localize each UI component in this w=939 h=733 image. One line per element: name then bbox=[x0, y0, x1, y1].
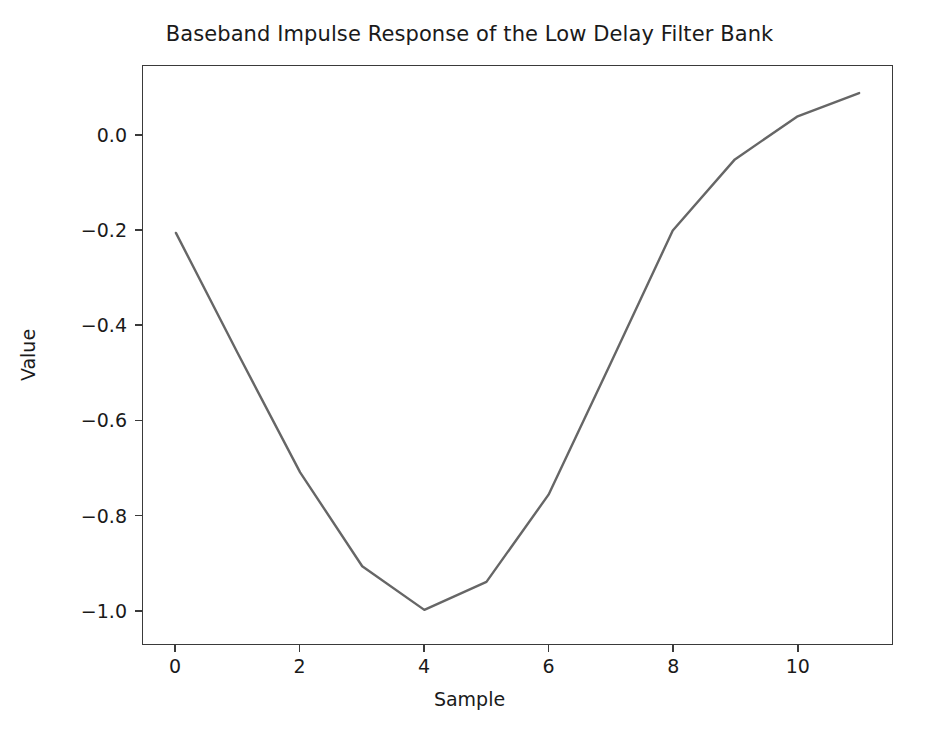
x-tick-label: 4 bbox=[394, 655, 454, 677]
x-tick-label: 6 bbox=[519, 655, 579, 677]
plot-area bbox=[142, 65, 893, 645]
x-tick-mark bbox=[299, 645, 301, 652]
x-tick-mark bbox=[548, 645, 550, 652]
x-tick-mark bbox=[797, 645, 799, 652]
x-tick-label: 2 bbox=[270, 655, 330, 677]
x-tick-label: 0 bbox=[145, 655, 205, 677]
x-tick-label: 8 bbox=[643, 655, 703, 677]
x-tick-mark bbox=[423, 645, 425, 652]
chart-figure: Baseband Impulse Response of the Low Del… bbox=[0, 0, 939, 733]
y-axis-label: Value bbox=[17, 329, 39, 381]
series-polyline bbox=[176, 93, 859, 610]
x-axis-label: Sample bbox=[0, 688, 939, 710]
x-tick-label: 10 bbox=[768, 655, 828, 677]
line-series bbox=[143, 66, 892, 644]
x-tick-mark bbox=[174, 645, 176, 652]
x-tick-mark bbox=[672, 645, 674, 652]
